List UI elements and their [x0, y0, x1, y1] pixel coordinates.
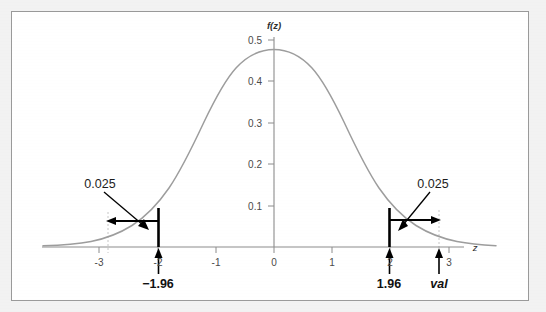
y-tick-label-0: 0.5 [248, 35, 262, 46]
normal-distribution-plot: 0.5 0.4 0.3 0.2 0.1 -3 -2 -1 0 1 2 3 f(z… [12, 12, 528, 300]
axis-pointer-val [435, 248, 443, 274]
x-tick-label-6: 3 [446, 257, 452, 268]
x-tick-label-2: -1 [212, 257, 221, 268]
left-area-label: 0.025 [84, 177, 115, 191]
x-tick-label-4: 1 [329, 257, 335, 268]
x-tick-label-1: -2 [154, 257, 163, 268]
normal-curve [43, 50, 496, 246]
x-axis-ticks [99, 247, 449, 253]
y-axis-label: f(z) [267, 20, 281, 31]
left-critical-value-label: −1.96 [142, 277, 174, 291]
leader-arrow-left [104, 192, 149, 230]
tail-arrow-left [106, 217, 158, 225]
tail-arrow-right [390, 216, 441, 224]
figure-page: 0.5 0.4 0.3 0.2 0.1 -3 -2 -1 0 1 2 3 f(z… [0, 0, 546, 312]
x-tick-label-0: -3 [95, 257, 104, 268]
val-label: val [430, 277, 448, 291]
leader-arrow-right [398, 192, 430, 231]
right-critical-value-label: 1.96 [377, 277, 401, 291]
y-tick-label-3: 0.2 [248, 159, 262, 170]
x-tick-label-5: 2 [387, 257, 393, 268]
y-tick-label-1: 0.4 [248, 76, 262, 87]
y-tick-label-2: 0.3 [248, 118, 262, 129]
x-axis-label: z [472, 242, 478, 253]
y-tick-label-4: 0.1 [248, 201, 262, 212]
y-axis-ticks [268, 40, 274, 206]
figure-frame: 0.5 0.4 0.3 0.2 0.1 -3 -2 -1 0 1 2 3 f(z… [11, 11, 529, 301]
x-tick-label-3: 0 [271, 257, 277, 268]
right-area-label: 0.025 [417, 177, 448, 191]
